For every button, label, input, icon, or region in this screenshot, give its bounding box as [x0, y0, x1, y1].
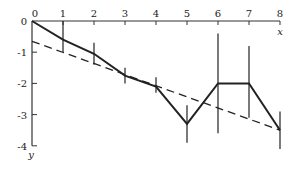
data-line	[32, 21, 280, 130]
x-tick-label: 8	[277, 8, 283, 19]
y-tick-label: -1	[17, 47, 27, 58]
line-chart: 0123456780-1-2-3-4xy	[0, 0, 298, 169]
x-tick-label: 5	[184, 8, 190, 19]
chart: 0123456780-1-2-3-4xy	[0, 0, 298, 169]
fit-line	[32, 41, 280, 130]
y-tick-label: -2	[17, 78, 27, 89]
x-tick-label: 4	[153, 8, 159, 19]
x-tick-label: 1	[60, 8, 66, 19]
x-tick-label: 7	[246, 8, 252, 19]
x-tick-label: 6	[215, 8, 221, 19]
x-tick-label: 3	[122, 8, 128, 19]
y-tick-label: -3	[17, 110, 27, 121]
y-tick-label: -4	[17, 141, 27, 152]
y-axis-label: y	[27, 149, 34, 160]
x-tick-label: 2	[91, 8, 97, 19]
y-tick-label: 0	[21, 16, 27, 27]
x-axis-label: x	[277, 26, 283, 37]
x-tick-label: 0	[32, 8, 38, 19]
